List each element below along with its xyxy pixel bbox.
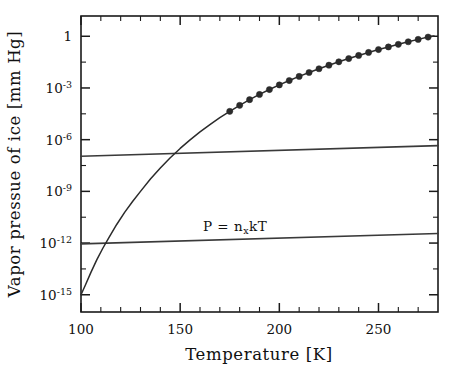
data-point bbox=[276, 82, 282, 88]
data-point bbox=[415, 36, 421, 42]
x-axis-tick-labels: 100150200250 bbox=[68, 321, 391, 337]
x-tick-label: 100 bbox=[68, 321, 94, 337]
data-point bbox=[296, 73, 302, 79]
data-point bbox=[375, 46, 381, 52]
plot-frame bbox=[81, 16, 438, 312]
data-point bbox=[365, 49, 371, 55]
vapor-pressure-chart: 110-310-610-910-1210-15 100150200250 Tem… bbox=[0, 0, 452, 373]
data-point bbox=[237, 102, 243, 108]
data-point bbox=[405, 39, 411, 45]
data-series-layer bbox=[81, 34, 438, 295]
data-point bbox=[227, 108, 233, 114]
x-tick-label: 250 bbox=[366, 321, 392, 337]
data-point bbox=[326, 62, 332, 68]
data-point bbox=[356, 52, 362, 58]
data-point bbox=[246, 97, 252, 103]
y-tick-label: 10-6 bbox=[46, 131, 72, 148]
data-point bbox=[425, 34, 431, 40]
equation-annotation: P = nxkT bbox=[203, 218, 267, 236]
x-axis-major-ticks bbox=[81, 16, 379, 312]
lower-partial-pressure-line bbox=[81, 233, 438, 243]
x-tick-label: 200 bbox=[266, 321, 292, 337]
data-point bbox=[385, 44, 391, 50]
data-point bbox=[395, 41, 401, 47]
y-tick-label: 10-3 bbox=[46, 79, 72, 96]
x-axis-title: Temperature [K] bbox=[185, 345, 333, 364]
x-axis-minor-ticks bbox=[101, 16, 418, 312]
y-tick-label: 10-9 bbox=[46, 182, 72, 199]
figure-container: 110-310-610-910-1210-15 100150200250 Tem… bbox=[0, 0, 452, 373]
data-point bbox=[346, 55, 352, 61]
data-point bbox=[336, 59, 342, 65]
y-tick-label: 10-15 bbox=[40, 286, 73, 303]
upper-partial-pressure-line bbox=[81, 146, 438, 157]
y-tick-label: 10-12 bbox=[40, 234, 73, 251]
data-point bbox=[316, 66, 322, 72]
y-axis-tick-labels: 110-310-610-910-1210-15 bbox=[40, 28, 73, 302]
vapor-pressure-markers bbox=[227, 34, 432, 114]
data-point bbox=[256, 91, 262, 97]
vapor-pressure-curve bbox=[81, 36, 434, 295]
y-axis-major-ticks bbox=[81, 36, 438, 294]
y-tick-label: 1 bbox=[63, 28, 72, 44]
data-point bbox=[266, 86, 272, 92]
x-tick-label: 150 bbox=[167, 321, 193, 337]
data-point bbox=[286, 77, 292, 83]
data-point bbox=[306, 69, 312, 75]
y-axis-title: Vapor pressue of ice [mm Hg] bbox=[5, 31, 24, 299]
